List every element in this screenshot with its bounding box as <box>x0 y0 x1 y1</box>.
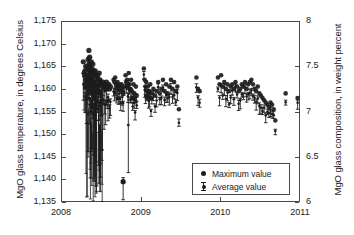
y-axis-right-tick-label: 7.5 <box>306 60 334 70</box>
x-axis-tick-mark <box>141 197 142 201</box>
y-axis-left-tick-mark <box>62 21 66 22</box>
y-axis-left-tick-label: 1,135 <box>22 196 56 206</box>
y-axis-left-tick-label: 1,175 <box>22 15 56 25</box>
y-axis-right-tick-mark <box>295 112 299 113</box>
x-axis-tick-mark <box>220 197 221 201</box>
y-axis-left-tick-label: 1,145 <box>22 151 56 161</box>
y-axis-right-tick-mark <box>295 202 299 203</box>
y-axis-left-tick-label: 1,165 <box>22 60 56 70</box>
chart-figure: MgO glass temperature, in degrees Celsiu… <box>0 0 354 235</box>
y-axis-right-tick-mark <box>295 66 299 67</box>
y-axis-left-tick-mark <box>62 66 66 67</box>
y-axis-left-tick-mark <box>62 44 66 45</box>
x-axis-tick-label: 2011 <box>280 207 320 217</box>
chart-legend: Maximum value Average value <box>192 163 290 195</box>
y-axis-left-tick-mark <box>62 112 66 113</box>
y-axis-left-tick-label: 1,140 <box>22 173 56 183</box>
legend-label-maximum-value: Maximum value <box>212 169 272 179</box>
filled-circle-icon <box>198 167 209 180</box>
y-axis-right-tick-label: 6 <box>306 196 334 206</box>
y-axis-right-tick-mark <box>295 157 299 158</box>
y-axis-right-tick-label: 7 <box>306 106 334 116</box>
y-axis-left-tick-label: 1,155 <box>22 106 56 116</box>
y-axis-left-tick-label: 1,150 <box>22 128 56 138</box>
x-axis-tick-label: 2010 <box>200 207 240 217</box>
error-bar-icon <box>198 180 209 193</box>
legend-label-average-value: Average value <box>212 182 266 192</box>
y-axis-left-tick-mark <box>62 89 66 90</box>
y-axis-left-tick-mark <box>62 134 66 135</box>
y-axis-left-tick-label: 1,160 <box>22 83 56 93</box>
y-axis-right-tick-mark <box>295 21 299 22</box>
legend-item-average-value: Average value <box>198 180 285 193</box>
y-axis-right-tick-label: 6.5 <box>306 151 334 161</box>
y-axis-left-tick-mark <box>62 179 66 180</box>
x-axis-tick-label: 2008 <box>41 207 81 217</box>
x-axis-tick-label: 2009 <box>121 207 161 217</box>
y-axis-left-tick-mark <box>62 157 66 158</box>
y-axis-left-tick-mark <box>62 202 66 203</box>
y-axis-right-tick-label: 8 <box>306 15 334 25</box>
y-axis-left-tick-label: 1,170 <box>22 38 56 48</box>
legend-item-maximum-value: Maximum value <box>198 167 285 180</box>
